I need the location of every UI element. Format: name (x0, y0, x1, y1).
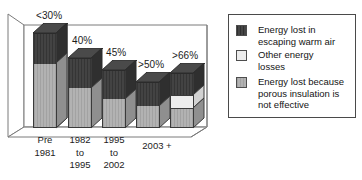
category-label-1995-2002: 1995 to 2002 (94, 134, 134, 172)
bar-label-1995-2002: 45% (106, 47, 126, 58)
legend-item-other-energy-losses[interactable]: Other energy losses (236, 49, 313, 72)
chart-screenshot: <30% 40% 45% (0, 0, 362, 180)
chart-plot-area: <30% 40% 45% (0, 0, 222, 160)
bar-segment-gray (102, 99, 126, 128)
legend-line-2: escaping warm air (258, 36, 335, 47)
legend-line-1: Energy lost because (258, 76, 344, 87)
cat-line: 1981 (25, 147, 65, 160)
bar-pre-1981 (33, 33, 57, 128)
bar-segment-dark (102, 70, 126, 99)
category-label-2003-plus: 2003 + (131, 140, 183, 153)
bar-label-2003-plus-50: >50% (138, 59, 164, 70)
bar-2003-plus-66 (170, 73, 194, 128)
bar-segment-gray (136, 106, 160, 128)
legend-line-2: porous insulation is (258, 88, 339, 99)
legend-item-label: Other energy losses (258, 49, 313, 72)
legend-item-porous-insulation[interactable]: Energy lost because porous insulation is… (236, 76, 344, 111)
bar-side-face (193, 63, 207, 129)
bar-2003-plus-50 (136, 82, 160, 128)
bar-segment-gray (33, 64, 57, 128)
bar-label-2003-plus-66: >66% (172, 50, 198, 61)
cat-line: Pre (25, 134, 65, 147)
white-swatch-icon (236, 50, 247, 61)
legend-item-escaping-warm-air[interactable]: Energy lost in escaping warm air (236, 24, 335, 47)
legend-line-2: losses (258, 61, 285, 72)
legend-item-label: Energy lost because porous insulation is… (258, 76, 344, 111)
bar-label-1982-1995: 40% (72, 35, 92, 46)
category-label-pre-1981: Pre 1981 (25, 134, 65, 159)
bar-segment-gray (68, 88, 92, 128)
bar-segment-dark (136, 82, 160, 106)
bar-segment-dark (68, 58, 92, 88)
bar-1982-1995 (68, 58, 92, 128)
cat-line: 2002 (94, 159, 134, 172)
bar-segment-dark (170, 73, 194, 95)
cat-line: 2003 + (131, 140, 183, 153)
chart-legend: Energy lost in escaping warm air Other e… (228, 14, 356, 118)
dark-swatch-icon (236, 25, 247, 36)
legend-line-1: Other energy (258, 49, 313, 60)
cat-line: to (94, 147, 134, 160)
legend-line-3: not effective (258, 99, 309, 110)
legend-line-1: Energy lost in (258, 24, 316, 35)
bar-1995-2002 (102, 70, 126, 128)
gray-swatch-icon (236, 77, 247, 88)
bar-label-pre-1981: <30% (36, 10, 62, 21)
bar-segment-dark (33, 33, 57, 64)
cat-line: 1995 (94, 134, 134, 147)
bar-segment-light (170, 95, 194, 108)
bar-segment-gray (170, 108, 194, 128)
legend-item-label: Energy lost in escaping warm air (258, 24, 335, 47)
